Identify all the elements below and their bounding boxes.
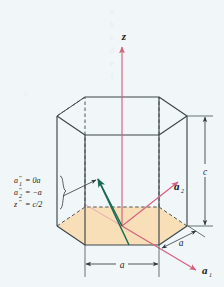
a1-axis-label-group: a 1 [202,264,212,278]
watermark-char: b [110,19,115,29]
watermark-char: a [110,6,114,16]
a2-axis-label-group: a 2 [174,180,184,194]
watermark-char: e [110,58,114,68]
coord-line2-var: a [14,188,18,197]
watermark-char: c [24,88,28,98]
watermark-char: c [110,32,114,42]
dim-a-edge-ext [188,226,205,237]
figure-canvas: a b c d e f c [0,0,224,287]
z-axis-label: z [121,30,127,42]
coordinate-label-leader [63,180,96,196]
top-hexagon-rear-visible [85,97,187,116]
a1-axis-label: a [202,264,208,276]
hexagonal-unit-cell-figure: a b c d e f c [0,0,224,287]
watermark-group: a b c d e f c [24,6,115,98]
coord-line2-value: = −a [25,188,42,197]
top-hexagon-rear-left-visible [57,97,85,116]
coord-line3-value: = c/2 [25,200,42,209]
dim-a-bottom-label: a [120,260,125,270]
dim-a-edge-label: a [179,238,184,248]
a1-axis-subscript: 1 [209,272,212,278]
point-coordinates-group: a ″ 1 = 0a a ″ 2 = −a z ″ = c/2 [13,174,66,209]
coord-line3-prime: ″ [19,198,22,206]
coord-line1-value: = 0a [25,176,40,185]
coord-line3-var: z [13,200,18,209]
coord-line1-var: a [14,176,18,185]
leader-line-group [63,180,96,196]
dimension-c-group: c [187,116,213,226]
dimension-a-bottom-group: a [85,245,159,277]
a2-axis-subscript: 2 [181,188,184,194]
watermark-char: f [111,71,114,81]
coordinate-brace [60,176,66,209]
a2-axis-label: a [174,180,180,192]
watermark-char: d [110,45,115,55]
